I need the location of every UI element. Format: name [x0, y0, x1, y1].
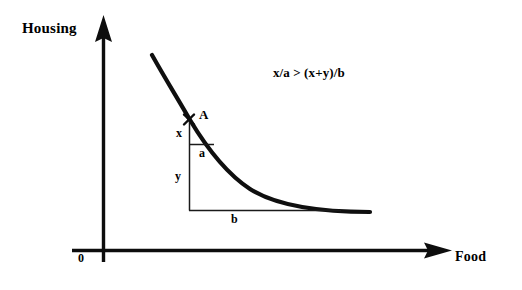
segment-x-label: x — [176, 127, 182, 139]
x-axis-arrowhead — [424, 243, 452, 259]
y-axis — [95, 15, 112, 262]
x-axis — [72, 243, 452, 259]
figure-svg — [0, 0, 522, 290]
y-axis-arrowhead — [95, 15, 112, 42]
y-axis-label: Housing — [22, 21, 77, 36]
x-axis-label: Food — [455, 250, 486, 264]
segment-a-label: a — [199, 147, 205, 159]
point-a-label: A — [199, 108, 208, 121]
segment-b-label: b — [231, 213, 238, 225]
diagram-canvas: Housing Food 0 x/a > (x+y)/b A x a y b — [0, 0, 522, 290]
origin-label: 0 — [78, 252, 84, 264]
inequality-label: x/a > (x+y)/b — [273, 66, 345, 79]
segment-y-label: y — [175, 170, 181, 182]
